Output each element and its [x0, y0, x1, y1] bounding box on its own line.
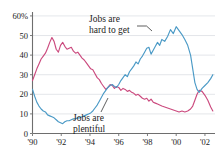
jobs-hard-to-get-line1: Jobs are	[89, 14, 130, 25]
x-tick-label: '90	[27, 137, 37, 147]
y-tick-label: 10	[20, 109, 29, 119]
jobs-plentiful-line1: Jobs are	[73, 113, 105, 124]
jobs-plentiful-annotation: Jobs are plentiful	[73, 113, 105, 134]
series-line-jobs-are-hard-to-get	[33, 27, 213, 124]
y-tick-label: 40	[20, 50, 29, 60]
chart-container: 0102030405060% '90'92'94'96'98'00'02 Job…	[0, 0, 222, 161]
x-tick-label: '96	[114, 137, 124, 147]
y-tick-label: 30	[20, 70, 29, 80]
x-axis-ticks: '90'92'94'96'98'00'02	[27, 134, 209, 148]
leader-line-hard-to-get	[137, 26, 152, 31]
y-tick-label: 50	[20, 31, 29, 41]
x-tick-label: '98	[142, 137, 152, 147]
x-tick-label: '00	[171, 137, 181, 147]
jobs-hard-to-get-line2: hard to get	[89, 25, 130, 36]
x-tick-label: '02	[200, 137, 210, 147]
series-lines	[33, 27, 213, 124]
jobs-hard-to-get-annotation: Jobs are hard to get	[89, 14, 130, 35]
jobs-plentiful-line2: plentiful	[73, 124, 105, 135]
y-tick-label: 60%	[12, 11, 28, 21]
x-tick-label: '94	[85, 137, 96, 147]
leader-line-plentiful	[101, 98, 108, 112]
y-tick-label: 20	[20, 89, 29, 99]
x-tick-label: '92	[56, 137, 66, 147]
y-axis-ticks: 0102030405060%	[12, 11, 32, 139]
